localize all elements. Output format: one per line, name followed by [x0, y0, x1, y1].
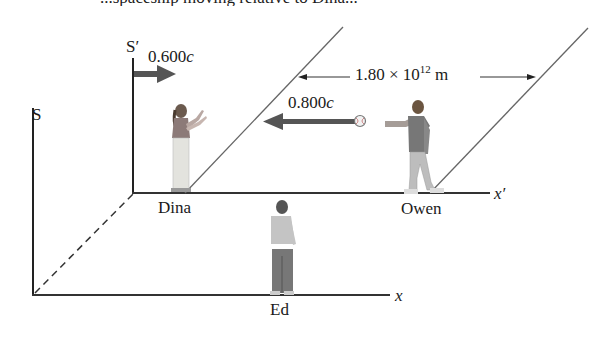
- frame-velocity-arrow-icon: [134, 65, 176, 83]
- owen-figure-icon: [385, 100, 444, 194]
- origin-link-dashed-line: [35, 194, 133, 293]
- dina-figure-icon: [171, 104, 207, 192]
- x-axis-label: x: [395, 287, 403, 304]
- frame-velocity-label: 0.600c: [148, 48, 194, 65]
- distance-label: 1.80 × 1012 m: [355, 66, 448, 83]
- frame-s-label: S: [32, 106, 41, 123]
- frame-velocity-unit: c: [186, 47, 194, 66]
- owen-label: Owen: [401, 200, 442, 217]
- frame-velocity-value: 0.600: [148, 47, 186, 66]
- distance-unit: m: [431, 65, 448, 84]
- distance-mantissa: 1.80 × 10: [355, 65, 420, 84]
- relativity-diagram: [0, 0, 601, 344]
- ed-label: Ed: [270, 301, 289, 318]
- ball-velocity-arrow-icon: [263, 113, 366, 130]
- distance-exponent: 12: [420, 63, 431, 75]
- ball-velocity-label: 0.800c: [288, 94, 334, 111]
- owen-diagonal-line: [430, 28, 588, 193]
- ball-velocity-unit: c: [326, 93, 334, 112]
- frame-s-prime-label: S′: [126, 38, 139, 55]
- ball-velocity-value: 0.800: [288, 93, 326, 112]
- x-prime-axis-label: x′: [494, 185, 505, 202]
- dina-label: Dina: [158, 199, 191, 216]
- ed-figure-icon: [270, 200, 296, 295]
